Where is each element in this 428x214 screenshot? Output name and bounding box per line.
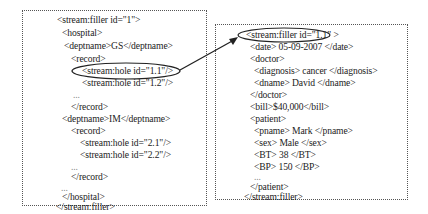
left-line-hole-1-1: <stream:hole id="1.1"/> bbox=[82, 65, 173, 77]
right-line-date: <date> 05-09-2007 </date> bbox=[250, 41, 353, 53]
right-line-doctor-open: <doctor> bbox=[250, 53, 285, 65]
right-line-sex: <sex> Male </sex> bbox=[254, 137, 327, 149]
right-line-patient-open: <patient> bbox=[250, 113, 286, 125]
left-line-hole-1-2: <stream:hole id="1.2"/> bbox=[82, 77, 173, 89]
left-line-deptname-gs: <deptname>GS</deptname> bbox=[64, 40, 173, 52]
right-line-bt: <BT> 38 </BT> bbox=[254, 149, 316, 161]
left-line-hole-2-1: <stream:hole id="2.1"/> bbox=[80, 137, 171, 149]
right-line-filler-close: </stream:filler> bbox=[244, 191, 303, 203]
right-line-diagnosis: <diagnosis> cancer </diagnosis> bbox=[254, 65, 378, 77]
right-line-filler-open: <stream:filler id="1.1" > bbox=[246, 29, 339, 41]
left-line-record-close: </record> bbox=[71, 101, 108, 113]
right-line-pname: <pname> Mark </pname> bbox=[254, 125, 353, 137]
left-line-filler-open: <stream:filler id="1"> bbox=[57, 14, 140, 26]
right-line-dname: <dname> David </dname> bbox=[254, 77, 356, 89]
left-line-hospital-open: <hospital> bbox=[62, 27, 102, 39]
left-line-deptname-im: <deptname>IM</deptname> bbox=[62, 113, 170, 125]
left-line-record-open-2: <record> bbox=[71, 125, 106, 137]
left-line-filler-close: </stream:filler> bbox=[56, 201, 115, 213]
left-line-ellipsis: ... bbox=[73, 89, 80, 101]
right-line-bp: <BP> 150 </BP> bbox=[254, 161, 320, 173]
right-line-bill: <bill>$40,000</bill> bbox=[250, 101, 329, 113]
left-line-record-open: <record> bbox=[71, 53, 106, 65]
left-line-record-close-2: </record> bbox=[71, 171, 108, 183]
right-line-doctor-close: </doctor> bbox=[250, 89, 287, 101]
left-line-hole-2-2: <stream:hole id="2.2"/> bbox=[80, 149, 171, 161]
